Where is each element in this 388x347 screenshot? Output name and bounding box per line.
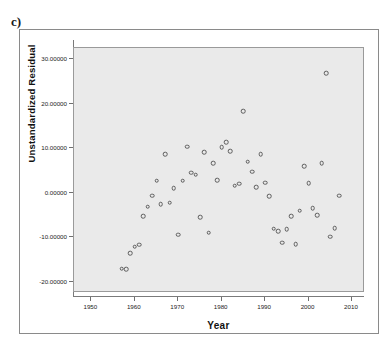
data-point — [150, 194, 155, 199]
data-point — [302, 164, 307, 169]
data-point — [315, 213, 320, 218]
data-point — [245, 159, 250, 164]
data-point — [128, 251, 133, 256]
data-point — [306, 181, 311, 186]
data-point — [263, 180, 268, 185]
data-point — [137, 243, 142, 248]
data-point — [154, 178, 159, 183]
y-axis-tick-label: -10.00000 — [39, 233, 67, 240]
x-axis-tick-label: 1990 — [257, 303, 271, 310]
x-axis-tick-marks — [0, 297, 388, 302]
y-axis-tick-mark — [69, 236, 73, 237]
data-point — [319, 161, 324, 166]
data-point — [311, 206, 316, 211]
data-point — [146, 204, 151, 209]
data-point — [224, 140, 229, 145]
x-axis-tick-mark — [177, 297, 178, 301]
data-point — [337, 194, 342, 199]
data-point — [159, 202, 164, 207]
y-axis-tick-mark — [69, 192, 73, 193]
data-point — [206, 231, 211, 236]
data-point — [124, 267, 129, 272]
scatter-plot-area — [73, 47, 364, 292]
data-point — [167, 200, 172, 205]
y-axis-tick-label: 30.00000 — [41, 55, 67, 62]
y-axis-tick-label: 20.00000 — [41, 99, 67, 106]
data-point — [241, 109, 246, 114]
data-point — [293, 242, 298, 247]
data-point — [202, 150, 207, 155]
y-axis-tick-mark — [69, 103, 73, 104]
y-axis-tick-mark — [69, 58, 73, 59]
x-axis-title: Year — [73, 320, 364, 331]
data-point — [237, 182, 242, 187]
data-point — [254, 185, 259, 190]
data-point — [198, 215, 203, 220]
x-axis-tick-label: 1960 — [127, 303, 141, 310]
y-axis-tick-mark — [69, 147, 73, 148]
y-axis-tick-label: 10.00000 — [41, 144, 67, 151]
data-point — [276, 229, 281, 234]
data-point — [298, 208, 303, 213]
x-axis-tick-mark — [351, 297, 352, 301]
data-point — [289, 214, 294, 219]
y-axis-tick-mark — [69, 281, 73, 282]
data-point — [176, 232, 181, 237]
data-point — [185, 145, 190, 150]
data-point — [193, 172, 198, 177]
y-axis-tick-label: -20.00000 — [39, 277, 67, 284]
x-axis-tick-label: 1950 — [83, 303, 97, 310]
x-axis-tick-mark — [90, 297, 91, 301]
data-point — [332, 226, 337, 231]
x-axis-tick-mark — [264, 297, 265, 301]
x-axis-tick-mark — [221, 297, 222, 301]
data-point — [211, 161, 216, 166]
x-axis-tick-mark — [134, 297, 135, 301]
data-point — [280, 240, 285, 245]
data-point — [285, 227, 290, 232]
data-point — [258, 152, 263, 157]
x-axis-tick-mark — [308, 297, 309, 301]
data-point — [215, 178, 220, 183]
data-point — [267, 194, 272, 199]
data-point — [250, 170, 255, 175]
x-axis-tick-label: 1980 — [214, 303, 228, 310]
x-axis-tick-labels: 1950196019701980199020002010 — [0, 303, 388, 315]
y-axis-tick-marks — [69, 0, 74, 347]
data-point — [219, 145, 224, 150]
data-point — [180, 178, 185, 183]
data-point — [228, 149, 233, 154]
data-point — [172, 186, 177, 191]
y-axis-title: Unstandardized Residual — [26, 4, 37, 204]
x-axis-tick-label: 1970 — [170, 303, 184, 310]
y-axis-tick-label: 0.00000 — [45, 188, 67, 195]
panel-label: c) — [11, 14, 21, 30]
x-axis-tick-label: 2010 — [344, 303, 358, 310]
data-point — [324, 71, 329, 76]
x-axis-tick-label: 2000 — [301, 303, 315, 310]
data-point — [141, 214, 146, 219]
data-point — [328, 235, 333, 240]
data-point — [163, 152, 168, 157]
